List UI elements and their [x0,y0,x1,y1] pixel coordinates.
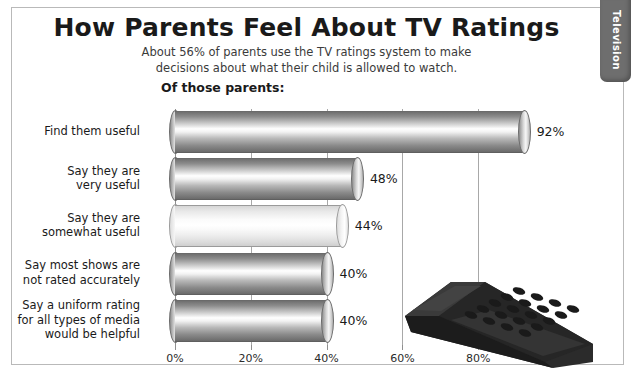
axis-tick-label: 0% [166,352,183,365]
bar-body [175,253,327,295]
bar [175,111,524,153]
bar-value-label: 40% [340,313,368,328]
axis-tick-label: 20% [239,352,263,365]
bar [175,253,327,295]
bar-body [175,158,357,200]
bar [175,205,342,247]
axis-tick-label: 40% [314,352,338,365]
bar [175,158,357,200]
category-label-line: Say they are [42,211,140,226]
bar-value-label: 40% [340,266,368,281]
bar-value-label: 92% [537,124,565,139]
bar-cap-right [321,299,334,343]
axis-tick [251,345,252,350]
category-label-line: somewhat useful [42,225,140,240]
category-label-line: Say most shows are [23,258,140,273]
category-label: Say a uniform ratingfor all types of med… [18,298,140,342]
bar-body [175,111,524,153]
category-label: Say they aresomewhat useful [42,211,140,240]
bar-value-label: 44% [355,218,383,233]
category-label-line: Say a uniform rating [18,298,140,313]
bar-cap-right [351,157,364,201]
category-label: Say most shows arenot rated accurately [23,258,140,287]
category-label: Find them useful [44,124,140,139]
bar-body [175,300,327,342]
tv-remote-icon [393,258,619,370]
category-label-line: not rated accurately [23,273,140,288]
axis-tick [327,345,328,350]
axis-tick [175,345,176,350]
category-label-line: Say they are [67,164,140,179]
bar-value-label: 48% [370,171,398,186]
category-label-line: would be helpful [18,327,140,342]
bar-cap-right [321,252,334,296]
category-label: Say they arevery useful [67,164,140,193]
bar-body [175,205,342,247]
bar-cap-right [336,204,349,248]
bar [175,300,327,342]
infographic-chart: Television How Parents Feel About TV Rat… [0,0,637,381]
category-label-line: for all types of media [18,313,140,328]
bar-cap-right [518,110,531,154]
category-label-line: very useful [67,178,140,193]
category-label-line: Find them useful [44,124,140,139]
